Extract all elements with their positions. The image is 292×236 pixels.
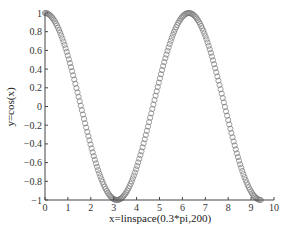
- y-ticks: 10.80.60.40.20−0.2−0.4−0.6−0.8−1: [24, 8, 48, 206]
- data-point-marker: [164, 52, 169, 57]
- data-point-marker: [235, 155, 240, 160]
- data-point-marker: [60, 36, 65, 41]
- data-point-marker: [239, 165, 244, 170]
- data-point-marker: [94, 164, 99, 169]
- y-tick-label: 0.6: [30, 45, 43, 56]
- data-point-marker: [207, 47, 212, 52]
- cosine-scatter-chart: 012345678910 10.80.60.40.20−0.2−0.4−0.6−…: [0, 0, 292, 236]
- data-point-marker: [96, 168, 101, 173]
- x-tick-label: 0: [43, 202, 48, 213]
- y-tick-label: −0.6: [24, 157, 42, 168]
- data-point-marker: [137, 156, 142, 161]
- data-point-marker: [167, 41, 172, 46]
- y-tick-label: 0.8: [30, 26, 43, 37]
- data-point-marker: [206, 43, 211, 48]
- data-point-marker: [209, 54, 214, 59]
- x-tick-label: 8: [226, 202, 231, 213]
- x-tick-label: 10: [269, 202, 279, 213]
- data-point-marker: [208, 50, 213, 55]
- x-tick-label: 2: [88, 202, 93, 213]
- data-point-marker: [166, 45, 171, 50]
- data-point-marker: [132, 170, 137, 175]
- data-markers: [42, 10, 263, 202]
- data-point-marker: [131, 173, 136, 178]
- data-point-marker: [64, 49, 69, 54]
- data-point-marker: [238, 162, 243, 167]
- data-point-marker: [204, 37, 209, 42]
- data-point-marker: [135, 163, 140, 168]
- y-tick-label: 1: [37, 8, 42, 19]
- data-point-marker: [61, 39, 66, 44]
- x-tick-label: 9: [249, 202, 254, 213]
- y-tick-label: −1: [31, 195, 42, 206]
- data-point-marker: [165, 48, 170, 53]
- data-point-marker: [133, 167, 138, 172]
- y-tick-label: 0: [37, 101, 42, 112]
- y-tick-label: 0.2: [30, 82, 43, 93]
- data-point-marker: [240, 168, 245, 173]
- y-tick-label: −0.2: [24, 120, 42, 131]
- data-point-marker: [65, 53, 70, 58]
- data-point-marker: [93, 161, 98, 166]
- data-point-marker: [63, 46, 68, 51]
- data-point-marker: [136, 160, 141, 165]
- x-ticks: 012345678910: [43, 197, 280, 213]
- y-tick-label: −0.4: [24, 138, 42, 149]
- data-point-marker: [97, 171, 102, 176]
- data-point-marker: [92, 157, 97, 162]
- data-point-marker: [205, 40, 210, 45]
- data-point-marker: [98, 174, 103, 179]
- y-tick-label: 0.4: [30, 64, 43, 75]
- y-axis-label: y=cos(x): [4, 87, 17, 127]
- data-point-marker: [62, 42, 67, 47]
- data-point-marker: [236, 158, 241, 163]
- data-point-marker: [241, 172, 246, 177]
- data-point-marker: [169, 35, 174, 40]
- x-axis-label: x=linspace(0.3*pi,200): [109, 212, 211, 225]
- data-point-marker: [168, 38, 173, 43]
- y-tick-label: −0.8: [24, 176, 42, 187]
- x-tick-label: 1: [65, 202, 70, 213]
